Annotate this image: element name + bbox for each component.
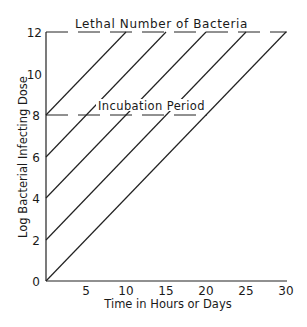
series-dose-2 [46,32,246,240]
y-axis-title: Log Bacterial Infecting Dose [16,76,30,238]
svg-text:25: 25 [238,284,253,298]
series-dose-6 [46,32,166,157]
series-dose-0 [46,32,286,281]
x-axis-title: Time in Hours or Days [103,297,231,311]
svg-text:6: 6 [32,151,40,165]
svg-text:10: 10 [118,284,133,298]
svg-text:5: 5 [82,284,90,298]
svg-text:0: 0 [32,275,40,289]
incubation-label: Incubation Period [98,99,205,113]
x-tick-labels: 5 10 15 20 25 30 [82,284,293,298]
svg-text:15: 15 [158,284,173,298]
svg-text:30: 30 [278,284,293,298]
svg-text:12: 12 [27,26,42,40]
svg-text:2: 2 [32,234,40,248]
series-lines [46,32,286,281]
chart: Lethal Number of Bacteria Incubation Per… [0,0,307,327]
svg-text:20: 20 [198,284,213,298]
lethal-label: Lethal Number of Bacteria [75,17,248,31]
svg-text:8: 8 [32,109,40,123]
svg-text:4: 4 [32,192,40,206]
